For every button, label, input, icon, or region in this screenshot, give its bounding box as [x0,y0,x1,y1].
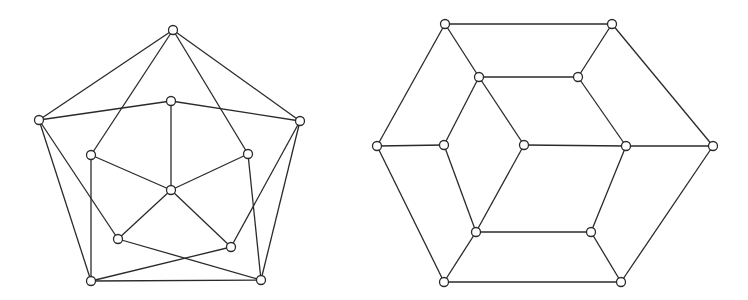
edge-T-IL [91,30,173,155]
edge-L-IT [39,101,171,120]
vertex-BR [617,278,626,287]
edge-IBR-BR [591,232,621,282]
right-graph-hexagon [373,20,718,287]
left-graph-pentagon [35,26,305,286]
vertex-IL [87,151,96,160]
edge-L-IL [377,145,444,146]
vertex-IR [244,150,253,159]
edge-C-IBL [118,190,171,239]
edge-C-IR [524,145,626,146]
vertex-R [296,117,305,126]
edges [377,24,713,282]
edge-IL-C [91,155,171,190]
edge-TL-L [377,24,445,146]
edges [39,30,300,281]
vertices [35,26,305,286]
edge-TR-R [612,24,713,146]
vertices [373,20,718,287]
edge-L-IBL [39,120,118,239]
edge-C-IBR [171,190,231,247]
edge-IR-BR [248,154,261,280]
vertex-BL [440,278,449,287]
vertex-IBR [227,243,236,252]
vertex-TR [608,20,617,29]
edge-C-IBL [476,145,524,232]
edge-IBL-BL [444,232,476,282]
vertex-BL [87,277,96,286]
edge-TL-ITL [445,24,479,77]
edge-ITR-IR [578,77,626,146]
edge-T-R [173,30,300,121]
edge-ITL-C [479,77,524,145]
vertex-C [520,141,529,150]
edge-IR-C [171,154,248,190]
edge-R-IBR [231,121,300,247]
vertex-C [167,186,176,195]
vertex-L [35,116,44,125]
edge-L-BL [377,146,444,282]
vertex-T [169,26,178,35]
edge-BR-R [621,146,713,282]
graph-figure [0,0,748,300]
edge-ITL-IL [444,77,479,145]
edge-BL-IBR [91,247,231,281]
edge-L-BL [39,120,91,281]
vertex-IL [440,141,449,150]
edge-T-L [39,30,173,120]
edge-R-BR [261,121,300,280]
edge-T-IR [173,30,248,154]
edge-IL-IBL [444,145,476,232]
edge-IBL-BR [118,239,261,280]
vertex-IBL [472,228,481,237]
vertex-TL [441,20,450,29]
vertex-IBR [587,228,596,237]
vertex-IR [622,142,631,151]
vertex-R [709,142,718,151]
vertex-BR [257,276,266,285]
edge-BL-BR [91,280,261,281]
vertex-ITR [574,73,583,82]
vertex-IBL [114,235,123,244]
vertex-L [373,142,382,151]
vertex-ITL [475,73,484,82]
edge-IR-IBR [591,146,626,232]
vertex-IT [167,97,176,106]
edge-R-IT [171,101,300,121]
edge-TR-ITR [578,24,612,77]
